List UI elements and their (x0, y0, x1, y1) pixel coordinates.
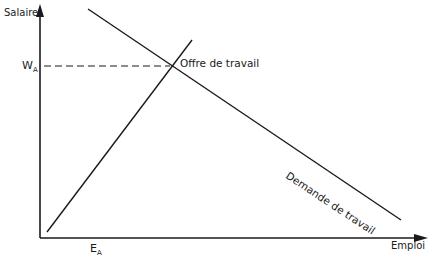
employment-label-sub: A (97, 249, 102, 257)
supply-curve-label: Offre de travail (180, 58, 259, 69)
x-axis-label: Emploi (391, 241, 425, 251)
equilibrium-employment-label: EA (90, 243, 102, 254)
wage-label-sub: A (33, 66, 38, 74)
employment-label-main: E (90, 242, 97, 255)
labor-market-diagram: Salaire Emploi WA EA Offre de travail De… (0, 0, 433, 259)
wage-label-main: W (22, 59, 33, 72)
supply-curve (47, 40, 192, 232)
y-axis-label: Salaire (4, 8, 38, 18)
equilibrium-wage-label: WA (22, 60, 38, 71)
